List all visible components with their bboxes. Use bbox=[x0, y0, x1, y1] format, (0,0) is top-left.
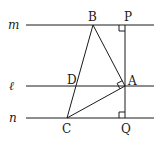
label-point-q: Q bbox=[121, 122, 131, 136]
geometry-diagram: m ℓ n B P A D C Q bbox=[0, 0, 165, 143]
label-line-n: n bbox=[9, 111, 17, 125]
label-point-a: A bbox=[127, 74, 137, 88]
segment-ba bbox=[93, 25, 125, 86]
right-angle-mark-p bbox=[119, 25, 125, 31]
segment-bc bbox=[67, 25, 93, 118]
right-angle-mark-q bbox=[119, 112, 125, 118]
label-line-l: ℓ bbox=[9, 79, 14, 93]
label-line-m: m bbox=[8, 18, 19, 32]
label-point-p: P bbox=[124, 10, 132, 24]
label-point-c: C bbox=[62, 122, 71, 136]
label-point-b: B bbox=[88, 10, 97, 24]
segment-ac bbox=[67, 86, 125, 118]
label-point-d: D bbox=[67, 73, 77, 87]
